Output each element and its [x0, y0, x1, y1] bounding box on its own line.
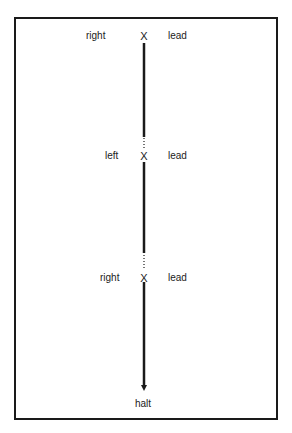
node-2-left-label: left	[105, 150, 118, 162]
node-2-right-label: lead	[168, 150, 187, 162]
halt-label: halt	[135, 398, 151, 410]
node-3-left-label: right	[100, 272, 119, 284]
node-1-left-label: right	[86, 30, 105, 42]
node-3-marker: X	[139, 272, 149, 284]
node-1-marker: X	[139, 30, 149, 42]
node-2-marker: X	[139, 150, 149, 162]
node-3-right-label: lead	[168, 272, 187, 284]
node-1-right-label: lead	[168, 30, 187, 42]
flow-lines	[0, 0, 292, 433]
arrow-head-icon	[141, 385, 147, 391]
